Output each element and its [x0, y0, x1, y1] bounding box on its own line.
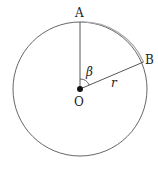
- label-o: O: [74, 95, 84, 109]
- angle-arc: [80, 79, 89, 85]
- circle-diagram: A B O β r: [0, 0, 158, 170]
- center-point: [77, 86, 83, 92]
- label-r: r: [111, 76, 118, 90]
- label-a: A: [74, 6, 84, 20]
- label-beta: β: [85, 65, 93, 79]
- label-b: B: [145, 53, 154, 67]
- arc-ab: [80, 22, 144, 62]
